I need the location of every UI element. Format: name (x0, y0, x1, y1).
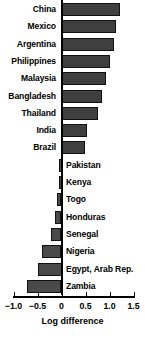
bar-row: Thailand (0, 105, 145, 124)
bar (62, 72, 106, 85)
bar-row: Mexico (0, 18, 145, 37)
bar-row: Nigeria (0, 243, 145, 262)
bar (62, 141, 85, 154)
bar-row: Pakistan (0, 157, 145, 176)
category-label: Bangladesh (8, 89, 56, 104)
bar (62, 20, 116, 33)
category-label: Pakistan (66, 158, 101, 173)
category-label: Kenya (66, 175, 91, 190)
x-axis-title: Log difference (0, 316, 145, 326)
plot-area: ChinaMexicoArgentinaPhilippinesMalaysiaB… (0, 0, 145, 296)
bar (27, 280, 61, 293)
x-axis-tick-label: 0 (59, 301, 64, 311)
bar-row: Togo (0, 191, 145, 210)
bar-row: Bangladesh (0, 88, 145, 107)
bar-row: Brazil (0, 139, 145, 158)
bar (38, 263, 62, 276)
bar-row: Egypt, Arab Rep. (0, 261, 145, 280)
bar-row: Malaysia (0, 70, 145, 89)
bar (62, 38, 114, 51)
x-axis-tick (14, 292, 16, 296)
category-label: India (36, 123, 56, 138)
bar-row: China (0, 1, 145, 20)
bar-row: Honduras (0, 209, 145, 228)
bar (42, 245, 61, 258)
bar-row: Argentina (0, 36, 145, 55)
log-difference-bar-chart: ChinaMexicoArgentinaPhilippinesMalaysiaB… (0, 0, 145, 341)
category-label: Senegal (66, 227, 98, 242)
x-axis-tick (110, 292, 112, 296)
bar-row: Zambia (0, 278, 145, 297)
bar-row: Senegal (0, 226, 145, 245)
x-axis: −1.0−0.500.51.01.5 Log difference (0, 296, 145, 341)
category-label: Brazil (33, 140, 56, 155)
bar (62, 55, 110, 68)
x-axis-tick-label: 0.5 (79, 301, 91, 311)
category-label: China (33, 2, 56, 17)
bar (62, 124, 88, 137)
bar (62, 107, 99, 120)
zero-baseline (61, 0, 63, 295)
category-label: Nigeria (66, 244, 94, 259)
category-label: Honduras (66, 210, 105, 225)
x-axis-tick-label: 1.0 (103, 301, 115, 311)
bar-row: Philippines (0, 53, 145, 72)
x-axis-tick-label: 1.5 (127, 301, 139, 311)
bar (51, 228, 61, 241)
x-axis-tick (134, 292, 136, 296)
category-label: Philippines (11, 54, 56, 69)
x-axis-tick (38, 292, 40, 296)
x-axis-tick-label: −0.5 (29, 301, 46, 311)
bar-row: Kenya (0, 174, 145, 193)
category-label: Zambia (66, 279, 96, 294)
bar (62, 90, 103, 103)
bar (62, 3, 120, 16)
x-axis-tick (86, 292, 88, 296)
category-label: Thailand (21, 106, 56, 121)
category-label: Togo (66, 192, 86, 207)
x-axis-line (13, 296, 135, 298)
bar-row: India (0, 122, 145, 141)
category-label: Malaysia (21, 71, 56, 86)
x-axis-tick-label: −1.0 (5, 301, 22, 311)
x-axis-tick (62, 292, 64, 296)
category-label: Argentina (17, 37, 56, 52)
category-label: Mexico (27, 19, 56, 34)
category-label: Egypt, Arab Rep. (66, 262, 133, 277)
